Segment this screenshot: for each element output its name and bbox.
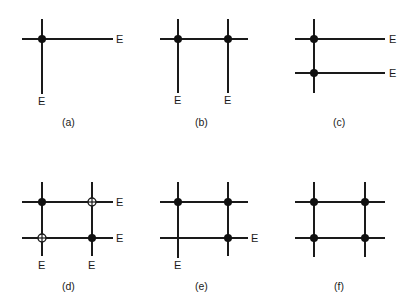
filled-node-icon: [224, 35, 232, 43]
end-label-bottom-left: E: [38, 259, 45, 271]
filled-node-icon: [224, 198, 232, 206]
filled-node-icon: [174, 35, 182, 43]
panel-b: E E (b): [160, 19, 248, 128]
end-label-right-bottom: E: [389, 67, 396, 79]
filled-node-icon: [38, 35, 46, 43]
filled-node-icon: [361, 198, 369, 206]
filled-node-icon: [174, 198, 182, 206]
filled-node-icon: [38, 198, 46, 206]
filled-node-icon: [310, 198, 318, 206]
filled-node-icon: [310, 69, 318, 77]
end-label-bottom-left: E: [174, 259, 181, 271]
end-label-bottom-right: E: [224, 94, 231, 106]
panel-e: E E (e): [160, 182, 258, 292]
open-crossed-node-icon: [38, 234, 46, 242]
open-crossed-node-icon: [88, 198, 96, 206]
filled-node-icon: [88, 234, 96, 242]
filled-node-icon: [310, 234, 318, 242]
end-label-right: E: [116, 33, 123, 45]
panel-caption: (c): [333, 116, 345, 128]
panel-c: E E (c): [295, 19, 396, 128]
filled-node-icon: [224, 234, 232, 242]
end-label-bottom-left: E: [174, 94, 181, 106]
filled-node-icon: [310, 35, 318, 43]
end-label-bottom: E: [38, 95, 45, 107]
panel-caption: (a): [62, 116, 75, 128]
end-label-bottom-right: E: [88, 259, 95, 271]
panel-f: (f): [295, 182, 385, 292]
panel-caption: (e): [195, 280, 208, 292]
filled-node-icon: [361, 234, 369, 242]
panel-d: E E E E (d): [22, 182, 123, 292]
lattice-diagram-figure: E E (a) E E (b) E E (c): [0, 0, 420, 302]
panel-caption: (b): [195, 116, 208, 128]
end-label-right-top: E: [116, 196, 123, 208]
end-label-right-top: E: [389, 33, 396, 45]
end-label-right-bottom: E: [116, 232, 123, 244]
end-label-right-bottom: E: [251, 232, 258, 244]
panel-caption: (d): [62, 280, 75, 292]
panel-a: E E (a): [22, 19, 123, 128]
panel-caption: (f): [334, 280, 344, 292]
